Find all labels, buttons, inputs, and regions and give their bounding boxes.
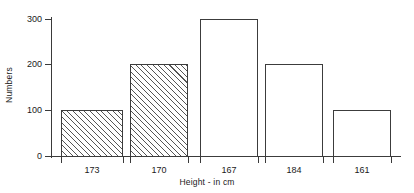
bar-170 [130, 64, 188, 157]
x-tick-3 [188, 157, 189, 163]
y-tick-label-0: 0 [12, 152, 42, 161]
x-axis-title: Height - in cm [0, 177, 414, 187]
x-tick-2 [130, 157, 131, 163]
y-tick-label-100: 100 [12, 106, 42, 115]
y-axis-line [51, 17, 52, 158]
y-tick-label-300: 300 [12, 15, 42, 24]
x-tick-label-167: 167 [209, 165, 249, 175]
y-tick-0 [45, 156, 52, 157]
x-tick-5 [258, 157, 259, 163]
x-tick-6 [265, 157, 266, 163]
y-tick-200 [45, 64, 52, 65]
bar-173 [61, 110, 123, 157]
x-tick-7 [323, 157, 324, 163]
x-tick-label-184: 184 [274, 165, 314, 175]
x-tick-label-173: 173 [72, 165, 112, 175]
y-tick-300 [45, 19, 52, 20]
y-axis-title: Numbers [4, 50, 14, 120]
x-tick-8 [333, 157, 334, 163]
x-tick-1 [123, 157, 124, 163]
x-tick-4 [200, 157, 201, 163]
bar-chart: 0 100 200 300 173 170 167 184 161 Height… [0, 0, 414, 193]
x-tick-label-170: 170 [139, 165, 179, 175]
x-tick-0 [61, 157, 62, 163]
x-tick-9 [391, 157, 392, 163]
x-tick-label-161: 161 [342, 165, 382, 175]
bar-167 [200, 19, 258, 157]
bar-184 [265, 64, 323, 157]
y-tick-100 [45, 110, 52, 111]
y-tick-label-200: 200 [12, 60, 42, 69]
bar-161 [333, 110, 391, 157]
